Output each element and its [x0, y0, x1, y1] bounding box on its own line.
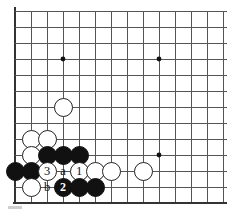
- star-point: [61, 57, 66, 62]
- point-label-a: a: [56, 163, 70, 179]
- stone-white-move-3: 3: [38, 162, 57, 181]
- stone-white: [54, 98, 73, 117]
- move-number: 3: [44, 165, 50, 178]
- star-point: [157, 153, 162, 158]
- go-board-diagram: ab312: [0, 0, 227, 217]
- stone-black: [86, 178, 105, 197]
- figure-caption-mark: [8, 206, 48, 214]
- move-number: 2: [60, 181, 66, 193]
- move-number: 1: [76, 165, 82, 178]
- stone-white: [22, 178, 41, 197]
- stone-white: [102, 162, 121, 181]
- point-label-b: b: [40, 179, 54, 195]
- stone-white: [134, 162, 153, 181]
- star-point: [157, 57, 162, 62]
